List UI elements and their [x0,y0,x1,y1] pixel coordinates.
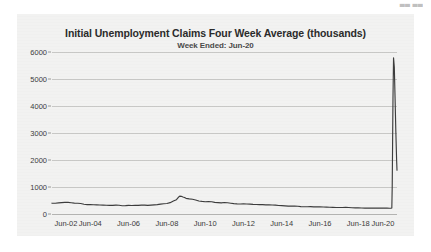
y-tick-mark-1000 [48,187,51,188]
y-tick-mark-3000 [48,133,51,134]
gridline-0 [52,214,397,215]
chart-title: Initial Unemployment Claims Four Week Av… [17,27,414,39]
y-tick-mark-6000 [48,52,51,53]
series-layer [52,52,397,214]
y-tick-mark-2000 [48,160,51,161]
x-tick-label-Jun-08: Jun-08 [155,219,178,228]
x-tick-label-Jun-14: Jun-14 [270,219,293,228]
plot-area: 0100020003000400050006000 Jun-02Jun-04Ju… [52,52,397,214]
y-tick-label-5000: 5000 [30,75,47,84]
x-tick-label-Jun-04: Jun-04 [79,219,102,228]
cropped-watermark-fragment: ▄▄ ▄▄ [379,0,423,7]
chart-panel: Initial Unemployment Claims Four Week Av… [17,14,414,236]
y-tick-label-2000: 2000 [30,156,47,165]
y-tick-label-3000: 3000 [30,129,47,138]
y-tick-label-6000: 6000 [30,48,47,57]
x-tick-label-Jun-12: Jun-12 [232,219,255,228]
x-tick-label-Jun-06: Jun-06 [117,219,140,228]
y-tick-mark-5000 [48,79,51,80]
screenshot-root: ▄▄ ▄▄ Initial Unemployment Claims Four W… [0,0,431,252]
y-tick-mark-4000 [48,106,51,107]
y-tick-mark-0 [48,214,51,215]
y-tick-label-0: 0 [43,210,47,219]
x-tick-label-Jun-20: Jun-20 [372,219,395,228]
x-tick-label-Jun-10: Jun-10 [194,219,217,228]
y-tick-label-1000: 1000 [30,183,47,192]
x-tick-label-Jun-02: Jun-02 [55,219,78,228]
x-tick-label-Jun-16: Jun-16 [309,219,332,228]
series-line-initial-claims [52,58,397,209]
y-tick-label-4000: 4000 [30,102,47,111]
chart-subtitle: Week Ended: Jun-20 [17,41,414,50]
x-tick-label-Jun-18: Jun-18 [347,219,370,228]
